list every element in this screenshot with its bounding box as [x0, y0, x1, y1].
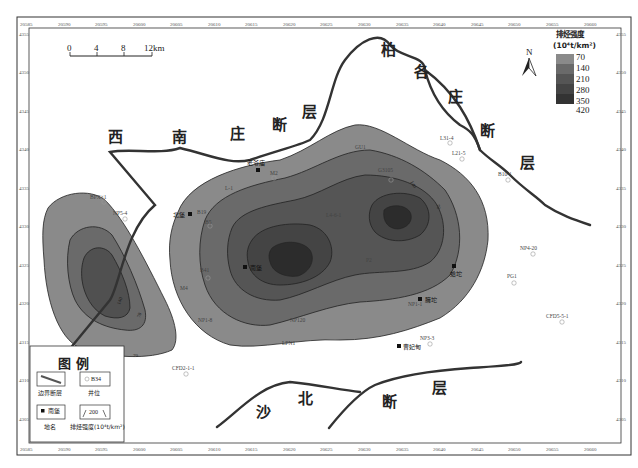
svg-text:4310: 4310 — [19, 378, 30, 383]
svg-text:20590: 20590 — [58, 447, 71, 452]
fault-label: 层 — [302, 103, 317, 121]
svg-text:4340: 4340 — [19, 147, 30, 152]
place-marker — [256, 168, 260, 172]
svg-text:P2: P2 — [366, 257, 372, 263]
svg-text:210: 210 — [576, 74, 590, 84]
svg-text:70: 70 — [133, 353, 139, 358]
svg-text:(10⁴t/km²): (10⁴t/km²) — [553, 41, 596, 50]
svg-text:N: N — [526, 47, 533, 57]
svg-text:8: 8 — [121, 43, 126, 53]
fault-label: 层 — [520, 154, 535, 172]
legend-swatch-210 — [556, 74, 574, 84]
svg-text:20635: 20635 — [396, 22, 409, 27]
fault-label: 柏 — [381, 41, 396, 59]
svg-text:NP120: NP120 — [290, 317, 306, 323]
svg-text:L21-5: L21-5 — [452, 150, 466, 156]
place-marker — [188, 212, 192, 216]
svg-text:L31-4: L31-4 — [440, 135, 454, 141]
top-coordinate-ticks: 20585 20590 20595 20600 20605 20610 2061… — [20, 22, 597, 27]
svg-text:南堡: 南堡 — [250, 264, 262, 271]
fault-label: 断 — [382, 393, 397, 411]
place-icon — [41, 409, 45, 413]
svg-text:420: 420 — [576, 105, 590, 115]
svg-text:臃坨: 臃坨 — [425, 296, 437, 304]
svg-text:20650: 20650 — [508, 447, 521, 452]
fault-label: 沙 — [256, 403, 271, 421]
svg-text:20630: 20630 — [358, 22, 371, 27]
legend-swatch-350 — [556, 94, 574, 104]
legend-swatch-140 — [556, 64, 574, 74]
svg-text:140: 140 — [576, 63, 590, 73]
svg-text:70: 70 — [576, 52, 586, 62]
legend-box: 图 例 边界断层 B34 井位 南堡 地名 200 排烃强度(10⁴t/km²) — [30, 346, 125, 442]
svg-text:4355: 4355 — [19, 32, 30, 37]
svg-text:280: 280 — [576, 85, 590, 95]
svg-text:4335: 4335 — [19, 186, 30, 191]
svg-text:4335: 4335 — [616, 186, 627, 191]
fault-label: 层 — [432, 379, 447, 397]
svg-text:4305: 4305 — [616, 417, 627, 422]
svg-text:20585: 20585 — [20, 22, 33, 27]
svg-text:20620: 20620 — [283, 447, 296, 452]
svg-text:20595: 20595 — [95, 22, 108, 27]
svg-text:B41: B41 — [200, 267, 209, 273]
legend-swatch-280 — [556, 84, 574, 94]
svg-text:G3105: G3105 — [378, 167, 393, 173]
svg-text:边界断层: 边界断层 — [38, 389, 62, 397]
svg-text:12km: 12km — [144, 43, 165, 53]
svg-text:4305: 4305 — [19, 417, 30, 422]
svg-text:20630: 20630 — [358, 447, 371, 452]
svg-text:20600: 20600 — [133, 447, 146, 452]
svg-text:北堡: 北堡 — [173, 211, 185, 219]
svg-text:M4: M4 — [180, 285, 188, 291]
svg-text:20585: 20585 — [20, 447, 33, 452]
svg-text:20645: 20645 — [471, 447, 484, 452]
place-marker — [243, 265, 247, 269]
svg-text:20620: 20620 — [283, 22, 296, 27]
svg-text:4310: 4310 — [616, 378, 627, 383]
svg-text:LPN1: LPN1 — [282, 340, 295, 346]
svg-text:NP5-4: NP5-4 — [113, 210, 128, 216]
svg-text:20610: 20610 — [208, 447, 221, 452]
svg-text:20605: 20605 — [170, 22, 183, 27]
svg-text:4320: 4320 — [616, 301, 627, 306]
svg-text:图 例: 图 例 — [58, 356, 89, 371]
svg-text:20610: 20610 — [208, 22, 221, 27]
svg-text:4340: 4340 — [616, 147, 627, 152]
svg-text:4345: 4345 — [616, 109, 627, 114]
svg-text:曹妃甸: 曹妃甸 — [403, 343, 421, 351]
place-marker — [452, 264, 456, 268]
svg-text:4: 4 — [94, 43, 99, 53]
fault-label: 各 — [413, 63, 430, 81]
svg-text:20650: 20650 — [508, 22, 521, 27]
fault-label: 庄 — [448, 88, 463, 106]
svg-text:排烃强度: 排烃强度 — [556, 29, 585, 39]
fault-label: 西 — [108, 128, 123, 146]
svg-text:20625: 20625 — [320, 447, 333, 452]
fault-label: 断 — [272, 116, 287, 134]
svg-text:20625: 20625 — [320, 22, 333, 27]
svg-text:4320: 4320 — [19, 301, 30, 306]
svg-text:B34: B34 — [91, 376, 101, 382]
svg-text:B10-1: B10-1 — [498, 171, 512, 177]
hydrocarbon-expulsion-intensity-map: 20585 20590 20595 20600 20605 20610 2061… — [0, 0, 638, 468]
svg-text:4330: 4330 — [19, 224, 30, 229]
bottom-coordinate-ticks: 20585 20590 20595 20600 20605 20610 2061… — [20, 447, 597, 452]
svg-text:20640: 20640 — [433, 447, 446, 452]
svg-text:20590: 20590 — [58, 22, 71, 27]
svg-text:4315: 4315 — [19, 340, 30, 345]
fault-label: 断 — [480, 122, 495, 140]
svg-text:20640: 20640 — [433, 22, 446, 27]
fault-label: 南 — [172, 128, 187, 146]
fault-label: 北 — [298, 390, 313, 408]
svg-text:NP3-3: NP3-3 — [420, 335, 435, 341]
fault-label: 庄 — [230, 125, 245, 143]
svg-text:20660: 20660 — [584, 22, 597, 27]
svg-text:20605: 20605 — [170, 447, 183, 452]
svg-text:L4-6-1: L4-6-1 — [326, 212, 342, 218]
svg-text:L-1: L-1 — [225, 185, 233, 191]
svg-text:4355: 4355 — [616, 32, 627, 37]
svg-text:NP1-8: NP1-8 — [198, 317, 213, 323]
svg-text:老爷庙: 老爷庙 — [247, 159, 265, 167]
svg-text:20655: 20655 — [546, 447, 559, 452]
